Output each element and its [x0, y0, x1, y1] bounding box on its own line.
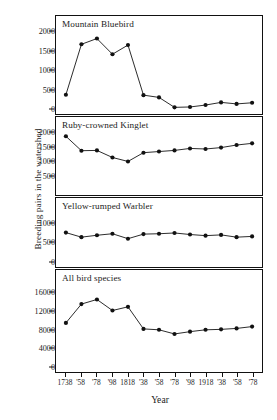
- data-point: [79, 302, 83, 306]
- data-point: [250, 234, 254, 238]
- y-tick-mark: [49, 50, 54, 51]
- y-tick-mark: [49, 109, 54, 110]
- x-tick-label: '78: [92, 378, 101, 387]
- data-point: [203, 234, 207, 238]
- data-point: [203, 328, 207, 332]
- y-tick-mark: [49, 161, 54, 162]
- data-point: [126, 43, 130, 47]
- x-tick-mark: [237, 373, 238, 377]
- data-point: [64, 93, 68, 97]
- x-tick-mark: [190, 373, 191, 377]
- panel-yellow-rumped-warbler: Yellow-rumped Warbler: [55, 197, 263, 268]
- data-point: [141, 93, 145, 97]
- data-point: [126, 159, 130, 163]
- x-tick-label: 1918: [199, 378, 214, 387]
- x-tick-mark: [112, 373, 113, 377]
- y-tick-mark: [49, 175, 54, 176]
- data-point: [157, 328, 161, 332]
- data-point: [219, 233, 223, 237]
- data-point: [95, 297, 99, 301]
- y-tick-mark: [49, 292, 54, 293]
- data-point: [141, 327, 145, 331]
- x-tick-label: '58: [155, 378, 164, 387]
- data-point: [234, 143, 238, 147]
- data-point: [203, 147, 207, 151]
- x-tick-mark: [222, 373, 223, 377]
- data-point: [110, 232, 114, 236]
- data-point: [126, 237, 130, 241]
- x-tick-label: '38: [217, 378, 226, 387]
- data-point: [95, 148, 99, 152]
- series-line-2: [56, 198, 262, 267]
- data-point: [188, 105, 192, 109]
- x-tick-mark: [253, 373, 254, 377]
- x-tick-label: 1818: [120, 378, 135, 387]
- y-tick-mark: [49, 146, 54, 147]
- data-point: [234, 235, 238, 239]
- data-point: [110, 52, 114, 56]
- x-axis-title: Year: [55, 394, 265, 405]
- x-tick-label: '58: [233, 378, 242, 387]
- x-tick-label: '98: [186, 378, 195, 387]
- series-line-0: [56, 16, 262, 114]
- y-tick-mark: [49, 132, 54, 133]
- data-point: [157, 95, 161, 99]
- data-point: [219, 100, 223, 104]
- panel-mountain-bluebird: Mountain Bluebird: [55, 15, 263, 115]
- x-tick-mark: [159, 373, 160, 377]
- data-point: [203, 103, 207, 107]
- data-point: [234, 102, 238, 106]
- data-point: [79, 42, 83, 46]
- series-line-3: [56, 270, 262, 372]
- data-point: [172, 105, 176, 109]
- data-point: [172, 148, 176, 152]
- data-point: [188, 146, 192, 150]
- data-point: [126, 305, 130, 309]
- y-tick-mark: [49, 262, 54, 263]
- data-point: [64, 231, 68, 235]
- data-point: [172, 231, 176, 235]
- x-tick-label: '78: [249, 378, 258, 387]
- x-tick-mark: [175, 373, 176, 377]
- panel-all-bird-species: All bird species: [55, 269, 263, 373]
- y-tick-mark: [49, 242, 54, 243]
- data-point: [157, 232, 161, 236]
- bird-population-figure: Breeding pairs in the watershed Mountain…: [0, 0, 277, 420]
- panel-ruby-crowned-kinglet: Ruby-crowned Kinglet: [55, 116, 263, 196]
- x-tick-mark: [206, 373, 207, 377]
- x-tick-label: '38: [139, 378, 148, 387]
- x-tick-label: '78: [170, 378, 179, 387]
- data-point: [141, 232, 145, 236]
- data-point: [234, 326, 238, 330]
- data-point: [172, 332, 176, 336]
- y-tick-mark: [49, 222, 54, 223]
- data-point: [110, 155, 114, 159]
- y-tick-mark: [49, 89, 54, 90]
- x-tick-label: '98: [108, 378, 117, 387]
- data-point: [219, 327, 223, 331]
- data-point: [250, 101, 254, 105]
- series-line-1: [56, 117, 262, 195]
- y-tick-mark: [49, 329, 54, 330]
- y-tick-mark: [49, 70, 54, 71]
- data-point: [64, 134, 68, 138]
- data-point: [188, 330, 192, 334]
- data-point: [250, 141, 254, 145]
- x-tick-mark: [96, 373, 97, 377]
- data-point: [64, 321, 68, 325]
- y-tick-mark: [49, 31, 54, 32]
- x-tick-label: 1738: [58, 378, 73, 387]
- y-tick-mark: [49, 348, 54, 349]
- data-point: [95, 233, 99, 237]
- data-point: [79, 149, 83, 153]
- x-tick-mark: [65, 373, 66, 377]
- x-tick-mark: [143, 373, 144, 377]
- data-point: [188, 232, 192, 236]
- x-tick-mark: [128, 373, 129, 377]
- data-point: [95, 37, 99, 41]
- data-point: [79, 235, 83, 239]
- data-point: [110, 308, 114, 312]
- x-tick-mark: [81, 373, 82, 377]
- y-tick-mark: [49, 367, 54, 368]
- x-tick-label: '58: [76, 378, 85, 387]
